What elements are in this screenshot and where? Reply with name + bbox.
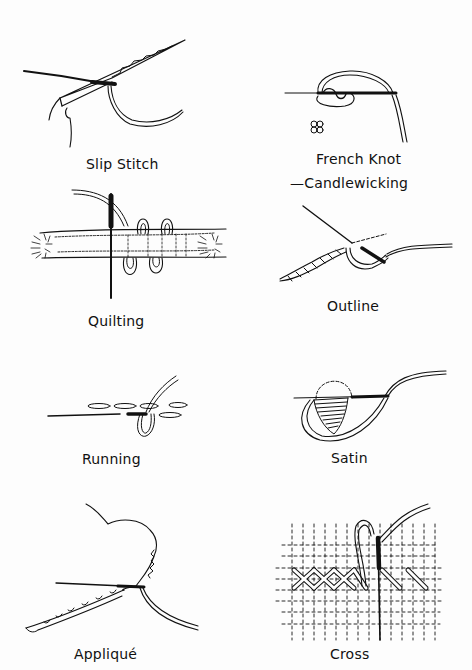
quilting-illustration: [31, 190, 226, 298]
applique-illustration: [26, 504, 198, 632]
applique-label: Appliqué: [74, 646, 137, 662]
stitch-guide-page: Slip Stitch French Knot —Candlewicking Q…: [0, 0, 472, 670]
outline-label: Outline: [327, 298, 379, 314]
stitch-illustrations: [0, 0, 472, 670]
slip-stitch-illustration: [24, 40, 185, 147]
cross-stitch-illustration: [276, 504, 444, 640]
french-knot-illustration: [285, 71, 407, 142]
cross-label: Cross: [330, 646, 369, 662]
satin-label: Satin: [331, 450, 368, 466]
running-stitch-illustration: [48, 376, 187, 436]
french-knot-label: French Knot: [316, 151, 401, 167]
slip-stitch-label: Slip Stitch: [86, 156, 159, 172]
running-label: Running: [82, 451, 141, 467]
satin-stitch-illustration: [294, 371, 446, 441]
quilting-label: Quilting: [88, 313, 144, 329]
outline-stitch-illustration: [280, 206, 452, 281]
candlewicking-label: —Candlewicking: [290, 175, 408, 191]
